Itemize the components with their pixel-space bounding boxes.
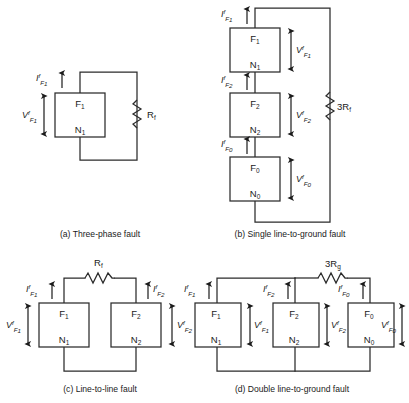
panel-d-current-3-label: IfF0 [338,283,350,299]
panel-a-voltage-1-label: VfF1 [22,109,37,125]
panel-b-voltage-3-label: VfF0 [296,173,312,189]
panel-b-voltage-2: VfF2 [291,96,312,134]
panel-b-voltage-1: VfF1 [291,31,311,69]
panel-b-single-line-to-ground-fault: F1 N1 F2 N2 F0 N0 IfF1 IfF2 IfF0 [221,8,351,240]
panel-d-current-1-label: IfF1 [184,283,195,299]
panel-c-network-box-2: F2 N2 [111,303,161,347]
panel-b-current-2: IfF2 [221,74,247,91]
panel-a-caption: (a) Three-phase fault [60,229,141,239]
panel-c-current-1-label: IfF1 [26,283,37,299]
panel-c-voltage-1: VfF1 [6,306,28,344]
panel-a-three-phase-fault: F1 N1 IfF1 VfF1 Rf (a) Three-phase fault [22,72,156,240]
fault-diagrams-figure: F1 N1 IfF1 VfF1 Rf (a) Three-phase fault [0,0,409,403]
panel-b-voltage-2-label: VfF2 [296,109,312,125]
panel-c-line-to-line-fault: F1 N1 F2 N2 IfF1 IfF2 VfF1 VfF2 [6,257,193,394]
panel-c-network-box-1: F1 N1 [39,303,89,347]
panel-c-current-2: IfF2 [148,283,165,300]
panel-d-voltage-1: VfF1 [250,306,269,344]
panel-b-current-3-label: IfF0 [221,138,233,154]
panel-b-voltage-1-label: VfF1 [296,44,311,60]
panel-b-network-box-3: F0 N0 [230,157,280,201]
panel-d-current-2-label: IfF2 [263,283,275,299]
panel-b-current-1: IfF1 [221,8,247,25]
panel-d-voltage-2-label: VfF2 [331,319,347,335]
panel-d-caption: (d) Double line-to-ground fault [235,384,350,394]
panel-b-network-box-2: F2 N2 [230,93,280,137]
panel-b-current-1-label: IfF1 [221,8,232,24]
panel-c-current-1: IfF1 [26,283,52,300]
panel-b-caption: (b) Single line-to-ground fault [235,229,346,239]
panel-c-caption: (c) Line-to-line fault [63,384,137,394]
panel-d-resistor: 3Rg [318,258,348,283]
panel-b-network-box-1: F1 N1 [230,28,280,72]
panel-d-voltage-2: VfF2 [327,306,347,344]
panel-d-current-1: IfF1 [184,283,209,300]
panel-c-resistor: Rf [85,257,115,283]
figure-canvas: F1 N1 IfF1 VfF1 Rf (a) Three-phase fault [0,0,409,403]
panel-a-voltage-1: VfF1 [22,96,44,134]
panel-d-double-line-to-ground-fault: F1 N1 F2 N2 F0 N0 IfF1 IfF2 IfF0 [184,258,402,394]
panel-d-voltage-1-label: VfF1 [254,319,269,335]
panel-a-resistor-label: Rf [147,109,156,121]
panel-d-current-3: IfF0 [338,283,363,300]
panel-b-resistor-label: 3Rf [337,101,351,113]
panel-c-resistor-label: Rf [94,257,103,269]
panel-a-network-box-1: F1 N1 [55,93,105,137]
panel-a-current-1-label: IfF1 [36,72,47,88]
panel-b-current-2-label: IfF2 [221,74,233,90]
panel-d-current-2: IfF2 [263,283,288,300]
panel-c-voltage-2: VfF2 [172,306,193,344]
panel-d-network-box-2: F2 N2 [273,303,319,347]
panel-b-voltage-3: VfF0 [291,160,312,198]
panel-c-voltage-2-label: VfF2 [177,319,193,335]
panel-c-voltage-1-label: VfF1 [6,319,21,335]
panel-c-current-2-label: IfF2 [153,283,165,299]
panel-b-current-3: IfF0 [221,138,247,155]
panel-d-resistor-label: 3Rg [325,258,341,271]
panel-a-current-1: IfF1 [36,72,62,89]
panel-d-network-box-1: F1 N1 [195,303,241,347]
